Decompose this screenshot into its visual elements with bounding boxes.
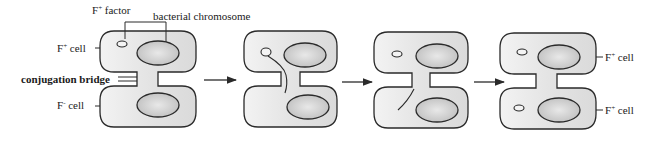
- stage-1: [100, 31, 196, 127]
- bacterial-chromosome-bottom: [137, 93, 179, 117]
- f-plus-cell-right-top-label: F+ cell: [605, 51, 634, 63]
- f-factor-plasmid-bottom: [514, 105, 524, 111]
- f-factor-plasmid: [261, 48, 271, 56]
- bacterial-chromosome-bottom: [538, 98, 580, 122]
- bacterial-chromosome-label: bacterial chromosome: [153, 10, 251, 22]
- stage-2: [244, 31, 337, 127]
- bacterial-chromosome-bottom: [416, 98, 458, 122]
- f-plus-factor-label: F+ factor: [92, 4, 131, 16]
- stage-4: [500, 33, 596, 129]
- f-factor-plasmid: [117, 41, 127, 47]
- f-minus-cell-label: F- cell: [57, 99, 84, 111]
- f-factor-plasmid: [392, 51, 402, 57]
- bacterial-chromosome-bottom: [287, 95, 329, 119]
- stage-3: [374, 32, 468, 128]
- conjugation-bridge-label: conjugation bridge: [21, 73, 110, 85]
- f-plus-cell-label: F+ cell: [57, 42, 86, 54]
- conjugation-diagram: F+ factor bacterial chromosome F+ cell c…: [0, 0, 651, 141]
- f-plus-cell-right-bottom-label: F+ cell: [605, 104, 634, 116]
- bacterial-chromosome-top: [538, 45, 580, 69]
- bacterial-chromosome-top: [416, 44, 458, 68]
- f-factor-plasmid-top: [517, 49, 527, 55]
- bacterial-chromosome-top: [284, 43, 326, 67]
- bacterial-chromosome-top: [137, 41, 179, 65]
